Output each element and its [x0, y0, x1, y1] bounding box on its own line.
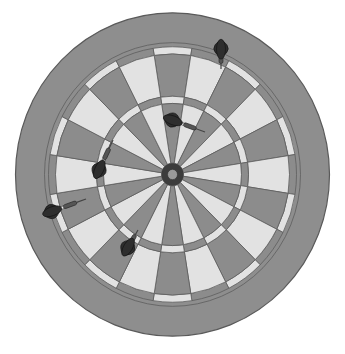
dartboard-scene: [0, 0, 345, 354]
dart-flight-horizontal: [217, 39, 226, 59]
dartboard: [16, 13, 330, 336]
bullseye: [168, 169, 178, 179]
